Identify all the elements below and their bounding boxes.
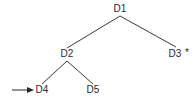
node-d2: D2 xyxy=(61,48,74,59)
edge-d2-d5 xyxy=(67,61,93,84)
arrow-right-icon xyxy=(12,87,34,93)
tree-diagram: D1D2D3*D4D5 xyxy=(0,0,195,107)
node-d5: D5 xyxy=(87,84,100,95)
node-d3: D3 xyxy=(169,48,182,59)
tree-nodes: D1D2D3*D4D5 xyxy=(36,3,189,95)
edge-d2-d4 xyxy=(42,61,67,84)
edge-d1-d3 xyxy=(120,16,176,47)
node-d1: D1 xyxy=(114,3,127,14)
node-d4: D4 xyxy=(36,84,49,95)
asterisk-marker: * xyxy=(185,47,189,58)
edge-d1-d2 xyxy=(67,16,120,48)
